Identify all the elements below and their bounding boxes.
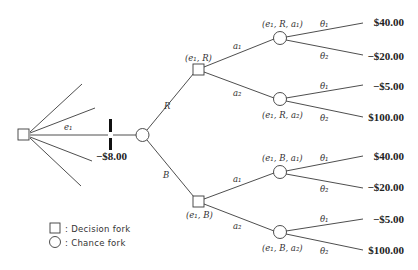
root-branches (30, 84, 136, 186)
experiment-label: e₁ (64, 122, 72, 132)
outcome-R-label: R (163, 101, 171, 111)
payoff-R-a1-t2: −$20.00 (367, 50, 404, 62)
chance-fork-e1-R-a1 (274, 32, 287, 45)
payoff-B-a2-t1: −$5.00 (373, 213, 405, 225)
decision-tree-diagram: e₁ −$8.00 R B (e₁, R) a₁ a₂ (e₁, R, a₁) … (0, 0, 418, 270)
chance-fork-e1-B-a2 (274, 226, 287, 239)
action-a2-label-R: a₂ (233, 88, 242, 98)
state-t2-label: θ₂ (320, 246, 329, 256)
decision-fork-e1-B (193, 196, 204, 207)
payoff-B-a1-t2: −$20.00 (367, 181, 404, 193)
decision-fork-e1-R (193, 64, 204, 75)
legend: : Decision fork : Chance fork (50, 223, 131, 248)
experiment-cost: −$8.00 (96, 150, 128, 162)
action-a2-label-B: a₂ (233, 221, 242, 231)
state-t1-label: θ₁ (320, 214, 329, 224)
payoff-R-a2-t1: −$5.00 (373, 80, 405, 92)
node-label-e1-R-a1: (e₁, R, a₁) (262, 19, 303, 29)
node-label-e1-B-a2: (e₁, B, a₂) (262, 243, 303, 253)
node-label-e1-B-a1: (e₁, B, a₁) (262, 153, 303, 163)
legend-decision-label: : Decision fork (65, 224, 131, 234)
payoff-R-a1-t1: $40.00 (374, 16, 405, 28)
outcome-B-label: B (162, 170, 169, 180)
chance-fork-e1-B-a1 (274, 166, 287, 179)
legend-chance-label: : Chance fork (65, 238, 126, 248)
chance-fork-e1-R-a2 (274, 93, 287, 106)
node-label-e1-R-a2: (e₁, R, a₂) (262, 110, 303, 120)
payoff-B-a1-t1: $40.00 (374, 150, 405, 162)
state-t2-label: θ₂ (320, 51, 329, 61)
state-t1-label: θ₁ (320, 81, 329, 91)
action-a1-label-R: a₁ (233, 41, 241, 51)
action-a1-label-B: a₁ (233, 174, 241, 184)
node-label-e1-B: (e₁, B) (186, 210, 213, 220)
chance-fork-legend-icon (50, 237, 61, 248)
root-decision-fork (18, 129, 29, 140)
payoff-B-a2-t2: $100.00 (368, 244, 404, 256)
payoff-R-a2-t2: $100.00 (368, 111, 404, 123)
state-t2-label: θ₂ (320, 113, 329, 123)
state-t1-label: θ₁ (320, 19, 329, 29)
decision-fork-legend-icon (50, 223, 60, 233)
node-label-e1-R: (e₁, R) (185, 53, 212, 63)
state-t2-label: θ₂ (320, 184, 329, 194)
experiment-chance-fork (136, 129, 149, 142)
state-t1-label: θ₁ (320, 153, 329, 163)
